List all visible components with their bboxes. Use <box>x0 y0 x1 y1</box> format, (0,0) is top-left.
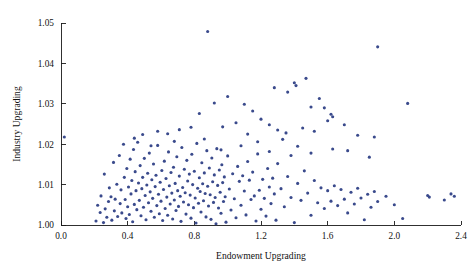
data-point <box>251 110 254 113</box>
data-point <box>161 219 164 222</box>
data-point <box>153 216 156 219</box>
data-point <box>241 174 244 177</box>
data-point <box>149 210 152 213</box>
data-point <box>326 119 329 122</box>
data-point <box>201 182 204 185</box>
data-point <box>169 171 172 174</box>
data-point <box>453 195 456 198</box>
data-point <box>118 154 121 157</box>
data-point <box>139 164 142 167</box>
data-point <box>204 215 207 218</box>
data-point <box>164 207 167 210</box>
data-point <box>331 148 334 151</box>
data-point <box>373 135 376 138</box>
data-point <box>192 206 195 209</box>
data-point <box>212 201 215 204</box>
data-point <box>309 152 312 155</box>
data-point <box>126 205 129 208</box>
data-point <box>256 140 259 143</box>
data-point <box>296 182 299 185</box>
data-point <box>346 211 349 214</box>
data-point <box>151 197 154 200</box>
data-point <box>236 165 239 168</box>
data-point <box>204 192 207 195</box>
data-point <box>228 187 231 190</box>
data-point <box>251 171 254 174</box>
data-point <box>248 179 251 182</box>
data-point <box>224 221 227 224</box>
data-point <box>259 208 262 211</box>
x-tick-label: 2.0 <box>389 231 401 241</box>
data-point <box>173 140 176 143</box>
data-point <box>119 188 122 191</box>
data-point <box>124 217 127 220</box>
data-point <box>149 190 152 193</box>
data-point <box>211 180 214 183</box>
data-point <box>226 95 229 98</box>
data-point <box>243 190 246 193</box>
data-point <box>259 118 262 121</box>
data-point <box>289 196 292 199</box>
data-point <box>203 171 206 174</box>
data-point <box>210 156 213 159</box>
data-point <box>179 195 182 198</box>
data-point <box>141 176 144 179</box>
data-point <box>129 158 132 161</box>
data-point <box>221 181 224 184</box>
data-point <box>333 184 336 187</box>
data-point <box>187 203 190 206</box>
data-point <box>274 219 277 222</box>
data-point <box>286 175 289 178</box>
data-point <box>155 204 158 207</box>
data-point <box>194 221 197 224</box>
data-point <box>229 209 232 212</box>
data-point <box>149 144 152 147</box>
data-point <box>198 112 201 115</box>
data-point <box>99 211 102 214</box>
data-point <box>174 209 177 212</box>
data-point <box>343 123 346 126</box>
data-point <box>127 185 130 188</box>
x-tick-label: 0.0 <box>55 231 67 241</box>
data-point <box>152 162 155 165</box>
data-point <box>138 199 141 202</box>
data-point <box>108 186 111 189</box>
data-point <box>219 148 222 151</box>
data-point <box>217 206 220 209</box>
data-point <box>368 156 371 159</box>
data-point <box>339 188 342 191</box>
data-point <box>94 219 97 222</box>
data-point <box>163 160 166 163</box>
data-point <box>142 206 145 209</box>
data-point <box>266 167 269 170</box>
data-point <box>213 101 216 104</box>
data-point <box>303 169 306 172</box>
data-point <box>168 184 171 187</box>
data-point <box>109 195 112 198</box>
data-point <box>184 191 187 194</box>
data-point <box>289 154 292 157</box>
data-point <box>276 129 279 132</box>
data-point <box>363 218 366 221</box>
data-point <box>406 102 409 105</box>
data-point <box>343 198 346 201</box>
data-point <box>326 189 329 192</box>
data-point <box>198 176 201 179</box>
data-point <box>176 189 179 192</box>
data-point <box>157 193 160 196</box>
data-point <box>143 157 146 160</box>
data-point <box>359 196 362 199</box>
data-point <box>246 133 249 136</box>
data-point <box>103 173 106 176</box>
data-point <box>165 196 168 199</box>
data-point <box>205 149 208 152</box>
data-point <box>222 200 225 203</box>
data-point <box>293 81 296 84</box>
data-point <box>180 146 183 149</box>
data-point <box>133 203 136 206</box>
data-point <box>166 214 169 217</box>
data-point <box>296 145 299 148</box>
data-point <box>401 217 404 220</box>
data-point <box>184 213 187 216</box>
data-point <box>154 174 157 177</box>
